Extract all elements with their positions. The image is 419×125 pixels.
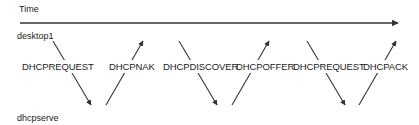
message-label-1: DHCPREQUEST — [22, 62, 94, 72]
lane-label-dhcpserve: dhcpserve — [17, 114, 59, 123]
message-label-5: DHCPREQUEST — [293, 62, 365, 72]
message-label-3: DHCPDISCOVER — [163, 62, 238, 72]
message-label-2: DHCPNAK — [109, 62, 155, 72]
time-label: Time — [19, 5, 39, 14]
message-label-6: DHCPACK — [363, 62, 408, 72]
lane-label-desktop1: desktop1 — [17, 32, 54, 41]
message-label-4: DHCPOFFER — [236, 62, 294, 72]
